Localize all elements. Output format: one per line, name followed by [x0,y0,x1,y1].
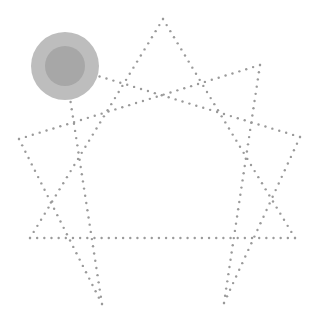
triangle-line-9-3 [162,18,296,239]
highlight-marker [31,32,99,100]
enneagram-diagram [0,0,318,327]
hexad-line-5-7 [18,138,103,305]
hexad-line-2-8 [64,65,301,138]
hexad-line-4-2 [223,136,301,304]
hexad-line-1-4 [223,64,261,304]
marker-inner-circle [45,46,85,86]
triangle-line-3-6 [29,237,296,239]
hexad-line-8-5 [64,65,103,305]
